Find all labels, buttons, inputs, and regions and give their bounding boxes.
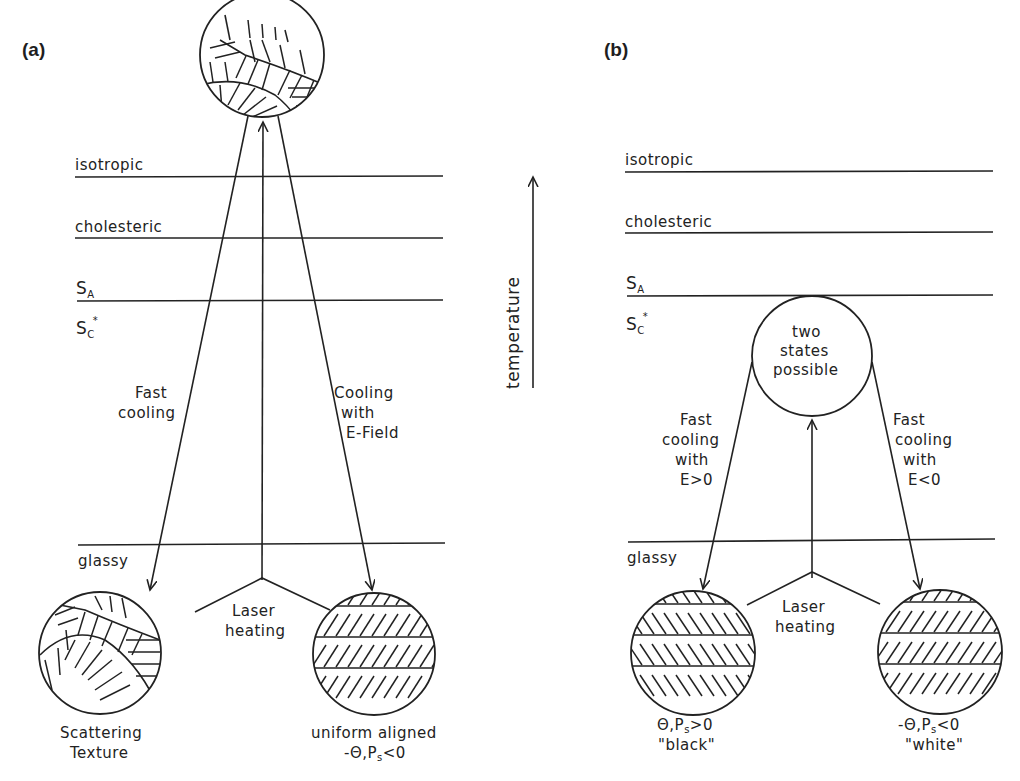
- phase-label-glassy-b: glassy: [627, 549, 677, 567]
- phase-label-glassy: glassy: [78, 552, 128, 570]
- phase-label-cholesteric-b: cholesteric: [625, 213, 712, 231]
- fast-cooling-neg-label-line3: with: [903, 451, 937, 469]
- phase-label-cholesteric: cholesteric: [75, 218, 162, 236]
- temperature-label: temperature: [503, 277, 523, 389]
- phase-label-smectic-c-star-b: SC*: [626, 311, 648, 336]
- cholesteric-boundary-line-b: [625, 232, 993, 233]
- phase-label-isotropic-b: isotropic: [625, 151, 694, 169]
- fast-cooling-pos-label-line2: cooling: [662, 431, 719, 449]
- two-states-label-line1: two: [792, 323, 821, 341]
- white-state-label-line2: "white": [905, 736, 963, 754]
- uniform-aligned-circle: [300, 583, 450, 715]
- fast-cooling-label-line2: cooling: [118, 404, 175, 422]
- cooling-with-e-field-arrow: [278, 116, 372, 590]
- isotropic-boundary-line-b: [625, 171, 993, 172]
- cooling-e-field-label-line1: Cooling: [334, 384, 394, 402]
- isotropic-boundary-line: [75, 176, 443, 177]
- phase-label-isotropic: isotropic: [75, 156, 144, 174]
- panel-a-label: (a): [22, 39, 45, 60]
- panel-b-label: (b): [604, 39, 628, 60]
- laser-heating-arrow: [262, 122, 263, 580]
- uniform-aligned-label-line2: -Θ,Ps<0: [344, 744, 406, 763]
- fast-cooling-neg-label-line1: Fast: [893, 411, 925, 429]
- scattering-label-line2: Texture: [69, 744, 128, 762]
- laser-label-line1-b: Laser: [782, 598, 826, 616]
- two-states-label-line3: possible: [773, 361, 838, 379]
- black-state-label-line1: Θ,Ps>0: [657, 716, 713, 735]
- uniform-aligned-label-line1: uniform aligned: [311, 724, 437, 742]
- fast-cooling-pos-label-line4: E>0: [680, 471, 713, 489]
- two-states-circle: two states possible: [752, 296, 872, 416]
- white-state-circle: [866, 580, 1016, 714]
- phase-label-smectic-c-star: SC*: [76, 315, 98, 340]
- laser-label-line2-b: heating: [775, 618, 836, 636]
- panel-a: (a) isotropic cholesteric SA SC* glassy: [22, 0, 450, 763]
- two-states-label-line2: states: [780, 342, 829, 360]
- black-state-label-line2: "black": [658, 736, 715, 754]
- fast-cooling-pos-label-line3: with: [675, 451, 709, 469]
- temperature-axis: temperature: [503, 177, 533, 389]
- scattering-label-line1: Scattering: [60, 724, 142, 742]
- phase-label-smectic-a: SA: [76, 278, 95, 300]
- phase-diagram-figure: (a) isotropic cholesteric SA SC* glassy: [0, 0, 1020, 781]
- white-state-label-line1: -Θ,Ps<0: [898, 716, 960, 735]
- fast-cooling-neg-label-line2: cooling: [895, 431, 952, 449]
- cooling-e-field-label-line3: E-Field: [346, 424, 399, 442]
- fast-cooling-arrow: [150, 116, 248, 590]
- phase-label-smectic-a-b: SA: [626, 273, 645, 295]
- smectic-a-boundary-line: [77, 300, 443, 301]
- black-state-circle: [620, 582, 770, 715]
- fast-cooling-label-line1: Fast: [135, 384, 167, 402]
- fast-cooling-neg-label-line4: E<0: [908, 471, 941, 489]
- cooling-e-field-label-line2: with: [341, 404, 375, 422]
- laser-label-line1: Laser: [232, 602, 276, 620]
- fast-cooling-pos-label-line1: Fast: [680, 411, 712, 429]
- scattering-texture-circle: [39, 592, 161, 714]
- panel-b: (b) isotropic cholesteric SA SC* glassy …: [604, 39, 1016, 754]
- laser-label-line2: heating: [225, 622, 286, 640]
